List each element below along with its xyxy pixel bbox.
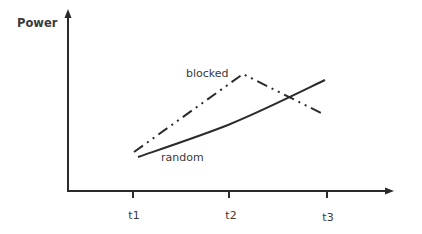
y-axis-label: Power bbox=[17, 16, 58, 30]
series-random-line bbox=[138, 80, 325, 157]
series-blocked-line bbox=[134, 74, 325, 152]
y-axis-arrow-icon bbox=[65, 9, 72, 18]
line-chart: t1 t2 t3 Power blocked random bbox=[0, 0, 422, 234]
x-axis-arrow-icon bbox=[385, 188, 394, 195]
tick-label-t1: t1 bbox=[128, 209, 139, 222]
tick-label-t2: t2 bbox=[225, 209, 236, 222]
tick-label-t3: t3 bbox=[322, 211, 333, 224]
series-label-random: random bbox=[161, 151, 204, 164]
series-label-blocked: blocked bbox=[186, 67, 229, 80]
